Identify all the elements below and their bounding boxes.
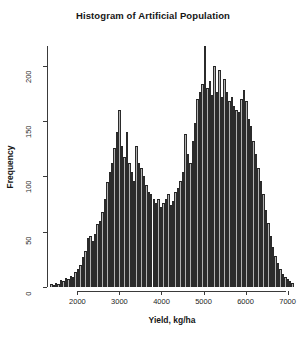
y-axis-tick bbox=[43, 232, 47, 233]
histogram-bars bbox=[48, 46, 296, 287]
x-axis-tick bbox=[77, 291, 78, 295]
y-axis-title-label: Frequency bbox=[5, 145, 15, 188]
x-axis-tick-label: 5000 bbox=[195, 297, 212, 306]
y-axis-tick-label: 100 bbox=[24, 181, 33, 194]
y-axis: 050100150200 bbox=[47, 46, 48, 287]
x-axis-tick bbox=[119, 291, 120, 295]
plot-area bbox=[48, 46, 296, 287]
x-axis-tick-label: 7000 bbox=[279, 297, 296, 306]
x-axis-tick bbox=[161, 291, 162, 295]
x-axis-tick bbox=[246, 291, 247, 295]
x-axis-tick-label: 6000 bbox=[237, 297, 254, 306]
x-axis-title: Yield, kg/ha bbox=[48, 315, 296, 325]
x-axis-tick bbox=[204, 291, 205, 295]
y-axis-tick bbox=[43, 121, 47, 122]
histogram-bar bbox=[291, 283, 293, 287]
x-axis-tick bbox=[288, 291, 289, 295]
y-axis-tick bbox=[43, 287, 47, 288]
y-axis-tick-label: 0 bbox=[24, 292, 33, 296]
y-axis-tick bbox=[43, 176, 47, 177]
y-axis-tick-label: 150 bbox=[24, 126, 33, 139]
y-axis-tick-label: 50 bbox=[24, 236, 33, 244]
x-axis: 200030004000500060007000 bbox=[78, 291, 286, 292]
y-axis-tick bbox=[43, 66, 47, 67]
x-axis-tick-label: 3000 bbox=[111, 297, 128, 306]
chart-title: Histogram of Artificial Population bbox=[0, 10, 306, 21]
x-axis-tick-label: 4000 bbox=[153, 297, 170, 306]
y-axis-title: Frequency bbox=[4, 46, 16, 287]
histogram-figure: Histogram of Artificial Population 05010… bbox=[0, 0, 306, 341]
x-axis-tick-label: 2000 bbox=[69, 297, 86, 306]
y-axis-tick-label: 200 bbox=[24, 70, 33, 83]
